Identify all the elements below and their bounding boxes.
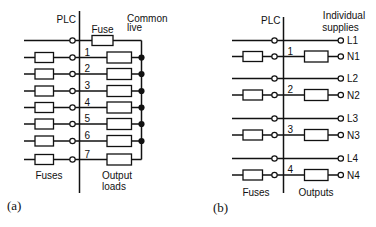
terminal-label-n3: N3 — [347, 130, 360, 141]
fuse-box-3 — [35, 86, 54, 96]
individual-supplies-label: Individual — [323, 10, 365, 21]
terminal-label-n2: N2 — [347, 90, 360, 101]
outputs-label: Outputs — [298, 187, 333, 198]
figure-caption-a: (a) — [7, 198, 21, 213]
plc-terminal-supply — [70, 38, 75, 43]
common-live-label: live — [127, 22, 142, 33]
plc-terminal-5 — [70, 121, 75, 126]
plc-terminal-l2 — [272, 76, 277, 81]
fuse-box-1 — [35, 53, 54, 63]
output-box-1 — [305, 51, 329, 62]
figure-caption-b: (b) — [213, 200, 228, 215]
diagram-b: 1 2 3 4 L1 N1 L2 N2 L3 N3 L4 N4 PLC Indi… — [213, 10, 365, 216]
terminal-label-n4: N4 — [347, 170, 360, 181]
terminal-label-l4: L4 — [347, 153, 359, 164]
supply-terminal-l3 — [338, 116, 343, 121]
output-load-box-1 — [107, 52, 132, 63]
channel-number: 7 — [85, 149, 91, 160]
output-load-box-4 — [107, 102, 132, 113]
channel-number: 3 — [288, 124, 294, 135]
figure-canvas: 1 2 3 4 5 6 7 PLC Fuse Common live Fuses… — [0, 0, 376, 227]
terminal-label-l2: L2 — [347, 73, 359, 84]
junction-dot-4 — [138, 104, 144, 110]
output-load-box-2 — [107, 69, 132, 80]
supply-terminal-l2 — [338, 76, 343, 81]
output-load-box-7 — [107, 154, 132, 165]
fuse-box-4 — [35, 103, 54, 113]
supply-terminal-l1 — [338, 38, 343, 43]
output-load-box-3 — [107, 86, 132, 97]
terminal-label-l3: L3 — [347, 113, 359, 124]
plc-terminal-6 — [70, 138, 75, 143]
wiring-diagram-svg: 1 2 3 4 5 6 7 PLC Fuse Common live Fuses… — [0, 0, 376, 227]
terminal-label-n1: N1 — [347, 51, 360, 62]
plc-terminal-7 — [70, 157, 75, 162]
fuse-box-4 — [243, 170, 263, 180]
supply-terminal-l4 — [338, 156, 343, 161]
fuse-box-7 — [35, 155, 54, 165]
fuse-box-5 — [35, 119, 54, 129]
supply-terminal-n2 — [338, 92, 343, 97]
fuse-box-3 — [243, 130, 263, 140]
channel-number: 3 — [85, 80, 91, 91]
fuse-box-1 — [243, 52, 263, 62]
plc-terminal-n2 — [272, 92, 277, 97]
plc-terminal-l1 — [272, 38, 277, 43]
plc-terminal-1 — [70, 55, 75, 60]
junction-dot-2 — [138, 71, 144, 77]
junction-dot-1 — [138, 54, 144, 60]
fuses-label: Fuses — [242, 187, 269, 198]
channel-number: 1 — [288, 46, 294, 57]
plc-terminal-3 — [70, 88, 75, 93]
output-loads-label: loads — [102, 181, 126, 192]
diagram-a: 1 2 3 4 5 6 7 PLC Fuse Common live Fuses… — [7, 11, 168, 213]
fuses-label: Fuses — [35, 170, 62, 181]
output-box-3 — [305, 130, 329, 141]
plc-terminal-l4 — [272, 156, 277, 161]
junction-dot-6 — [138, 138, 144, 144]
supply-terminal-n4 — [338, 172, 343, 177]
junction-dot-3 — [138, 88, 144, 94]
channel-number: 4 — [85, 97, 91, 108]
output-loads-label: Output — [102, 170, 132, 181]
plc-terminal-4 — [70, 105, 75, 110]
plc-terminal-2 — [70, 71, 75, 76]
plc-terminal-l3 — [272, 116, 277, 121]
channel-number: 2 — [85, 63, 91, 74]
channel-number: 5 — [85, 113, 91, 124]
channel-number: 4 — [288, 164, 294, 175]
output-box-4 — [305, 170, 329, 181]
fuse-box-2 — [243, 90, 263, 100]
junction-dot-5 — [138, 121, 144, 127]
fuse-box-6 — [35, 136, 54, 146]
plc-terminal-n1 — [272, 54, 277, 59]
plc-terminal-n4 — [272, 172, 277, 177]
individual-supplies-label: supplies — [322, 22, 359, 33]
plc-terminal-n3 — [272, 132, 277, 137]
channel-number: 2 — [288, 84, 294, 95]
channel-number: 1 — [85, 47, 91, 58]
plc-label: PLC — [57, 14, 76, 25]
fuse-label: Fuse — [91, 24, 114, 35]
terminal-label-l1: L1 — [347, 35, 359, 46]
channel-number: 6 — [85, 130, 91, 141]
output-load-box-6 — [107, 136, 132, 147]
supply-fuse-box — [92, 36, 113, 46]
supply-terminal-n1 — [338, 54, 343, 59]
supply-terminal-n3 — [338, 132, 343, 137]
output-box-2 — [305, 90, 329, 101]
output-load-box-5 — [107, 119, 132, 130]
plc-label: PLC — [261, 15, 280, 26]
fuse-box-2 — [35, 69, 54, 79]
